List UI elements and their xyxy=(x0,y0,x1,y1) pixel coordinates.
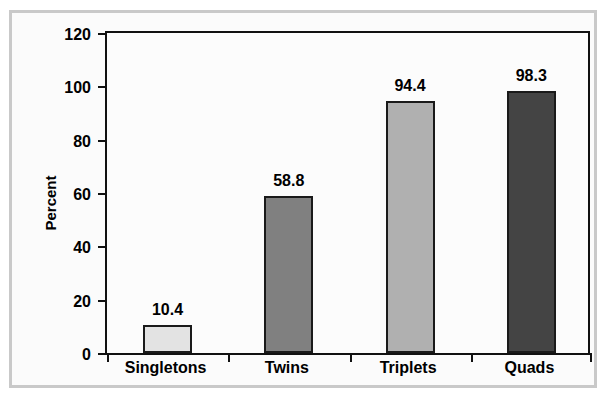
bar-triplets[interactable]: 94.4 xyxy=(386,101,435,353)
y-tick-label-20: 20 xyxy=(73,294,91,310)
bar-twins[interactable]: 58.8 xyxy=(264,196,313,353)
plot-area: 120 100 80 60 40 20 0 10.4 58.8 xyxy=(105,31,590,355)
y-tick-100: 100 xyxy=(98,86,107,88)
x-tick-2 xyxy=(350,353,352,362)
y-tick-label-120: 120 xyxy=(64,27,91,43)
y-tick-label-0: 0 xyxy=(82,347,91,363)
y-tick-0: 0 xyxy=(98,353,107,355)
y-tick-60: 60 xyxy=(98,193,107,195)
x-tick-4 xyxy=(590,353,592,362)
y-tick-40: 40 xyxy=(98,246,107,248)
bar-value-quads: 98.3 xyxy=(516,68,547,84)
x-tick-3 xyxy=(471,353,473,362)
chart-figure: Percent 120 100 80 60 40 20 0 1 xyxy=(0,0,611,405)
x-label-singletons: Singletons xyxy=(125,360,207,376)
y-tick-label-80: 80 xyxy=(73,134,91,150)
y-tick-label-60: 60 xyxy=(73,187,91,203)
y-tick-label-100: 100 xyxy=(64,80,91,96)
y-tick-120: 120 xyxy=(98,33,107,35)
bar-value-triplets: 94.4 xyxy=(394,78,425,94)
bar-value-twins: 58.8 xyxy=(273,173,304,189)
x-label-quads: Quads xyxy=(504,360,554,376)
y-tick-label-40: 40 xyxy=(73,240,91,256)
x-tick-0 xyxy=(107,353,109,362)
bar-value-singletons: 10.4 xyxy=(152,302,183,318)
y-axis-title: Percent xyxy=(43,175,58,230)
x-label-twins: Twins xyxy=(265,360,309,376)
y-tick-80: 80 xyxy=(98,140,107,142)
bar-quads[interactable]: 98.3 xyxy=(507,91,556,353)
y-tick-20: 20 xyxy=(98,300,107,302)
bar-singletons[interactable]: 10.4 xyxy=(143,325,192,353)
x-label-triplets: Triplets xyxy=(380,360,437,376)
x-tick-1 xyxy=(228,353,230,362)
